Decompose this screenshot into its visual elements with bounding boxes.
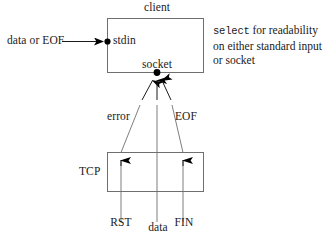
rst-label: RST [103,216,139,229]
select-note: select for readability on either standar… [213,23,335,68]
stdin-source-label: data or EOF [7,34,64,47]
stdin-label: stdin [113,34,136,47]
client-box-label: client [127,1,187,14]
select-readability-diagram: client data or EOF stdin socket select f… [0,0,335,245]
eof-path-upper [162,81,171,101]
select-note-line3: or socket [213,53,335,68]
fin-label: FIN [166,216,202,229]
tcp-box-outline [108,153,204,192]
error-path-upper [142,81,153,101]
error-label: error [107,110,130,123]
tcp-box-label: TCP [79,165,100,178]
select-note-line1-rest: for readability [250,24,318,36]
stdin-endpoint-dot [104,38,110,44]
socket-label: socket [130,58,184,71]
select-note-line2: on either standard input [213,39,335,54]
eof-label: EOF [175,110,197,123]
select-keyword: select [213,25,250,37]
